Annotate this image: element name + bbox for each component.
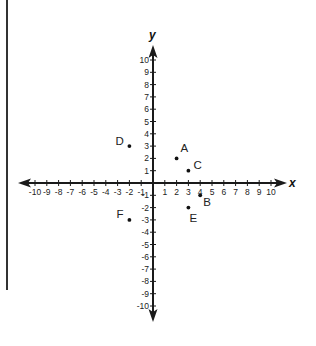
y-tick-label: 2 [144, 153, 149, 163]
x-tick-label: -9 [43, 187, 51, 197]
y-tick-label: -4 [141, 227, 149, 237]
point-e: E [187, 206, 198, 224]
y-tick-label: -6 [141, 252, 149, 262]
x-axis-label: x [288, 176, 297, 190]
x-tick-label: 2 [174, 187, 179, 197]
x-tick-label: -8 [55, 187, 63, 197]
point-f: F [116, 208, 131, 222]
point-dot-icon [127, 144, 131, 148]
plotted-points: ABCDEF [115, 135, 211, 224]
x-tick-label: 9 [257, 187, 262, 197]
y-tick-label: 9 [144, 67, 149, 77]
point-label: B [203, 196, 211, 208]
x-tick-label: 1 [162, 187, 167, 197]
point-a: A [175, 142, 189, 160]
y-tick-label: -9 [141, 289, 149, 299]
y-tick-label: 4 [144, 129, 149, 139]
y-tick-label: -8 [141, 276, 149, 286]
x-tick-label: 10 [266, 187, 276, 197]
coordinate-plane: -10-9-8-7-6-5-4-3-2-112345678910 -10-9-8… [0, 0, 316, 346]
x-tick-label: 8 [245, 187, 250, 197]
point-dot-icon [187, 206, 191, 210]
point-d: D [115, 135, 131, 148]
point-label: F [116, 208, 123, 220]
y-axis-label: y [148, 28, 157, 42]
point-label: E [189, 212, 197, 224]
point-label: C [193, 159, 201, 171]
y-tick-label: 7 [144, 92, 149, 102]
y-tick-label: -5 [141, 240, 149, 250]
y-tick-label: 10 [140, 55, 150, 65]
point-dot-icon [198, 193, 202, 197]
y-tick-label: 5 [144, 117, 149, 127]
point-c: C [187, 159, 202, 173]
y-tick-label: -3 [141, 215, 149, 225]
y-tick-label: 3 [144, 141, 149, 151]
x-tick-label: -2 [126, 187, 134, 197]
x-tick-label: -6 [78, 187, 86, 197]
point-b: B [198, 193, 211, 208]
x-tick-label: 7 [233, 187, 238, 197]
point-dot-icon [187, 169, 191, 173]
y-tick-label: -1 [141, 190, 149, 200]
point-label: D [115, 135, 123, 147]
point-dot-icon [175, 157, 179, 161]
point-label: A [181, 142, 189, 154]
x-tick-label: 6 [221, 187, 226, 197]
y-tick-label: -7 [141, 264, 149, 274]
y-tick-label: 8 [144, 80, 149, 90]
x-tick-label: -10 [29, 187, 42, 197]
x-tick-label: 3 [186, 187, 191, 197]
x-tick-label: -3 [114, 187, 122, 197]
x-tick-label: -5 [90, 187, 98, 197]
y-tick-label: 1 [144, 166, 149, 176]
x-tick-label: -7 [67, 187, 75, 197]
y-tick-label: -2 [141, 203, 149, 213]
point-dot-icon [127, 218, 131, 222]
x-tick-label: -4 [102, 187, 110, 197]
y-tick-label: 6 [144, 104, 149, 114]
y-tick-label: -10 [137, 301, 150, 311]
